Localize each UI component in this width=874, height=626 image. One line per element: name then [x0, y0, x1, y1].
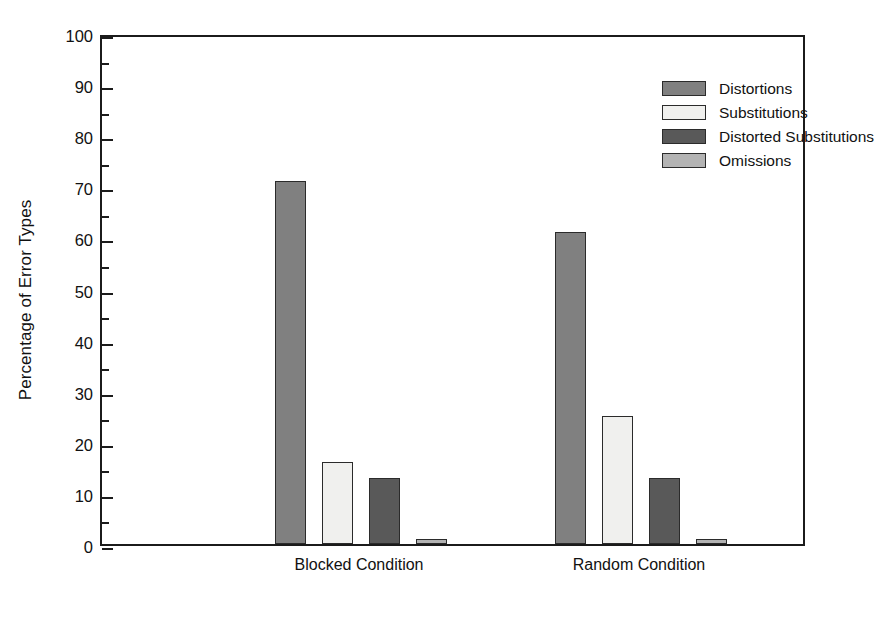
bar [555, 232, 586, 544]
y-tick-mark [102, 63, 109, 65]
bar [602, 416, 633, 544]
y-tick-mark [102, 446, 113, 448]
y-tick-label: 10 [75, 486, 93, 506]
x-axis-group-label: Random Condition [529, 556, 749, 574]
legend-swatch-icon [662, 129, 706, 144]
y-tick-mark [102, 114, 109, 116]
legend-swatch-icon [662, 153, 706, 168]
y-tick-mark [102, 395, 113, 397]
y-tick-mark [102, 344, 113, 346]
y-tick-mark [102, 522, 109, 524]
legend-item-label: Distortions [719, 80, 792, 97]
y-tick-label: 0 [84, 537, 93, 557]
legend-item-label: Distorted Substitutions [719, 128, 874, 145]
legend-swatch-icon [662, 105, 706, 120]
y-tick-label: 100 [65, 26, 93, 46]
bar [369, 478, 400, 544]
y-tick-mark [102, 216, 109, 218]
chart-legend: DistortionsSubstitutionsDistorted Substi… [662, 79, 874, 170]
bar [416, 539, 447, 544]
y-axis-title: Percentage of Error Types [16, 140, 36, 460]
y-tick-mark [102, 318, 109, 320]
y-tick-label: 80 [75, 128, 93, 148]
y-tick-label: 20 [75, 435, 93, 455]
y-tick-mark [102, 139, 113, 141]
y-tick-mark [102, 190, 113, 192]
bar [649, 478, 680, 544]
bar [275, 181, 306, 544]
y-tick-mark [102, 497, 113, 499]
y-tick-mark [102, 267, 109, 269]
y-tick-label: 90 [75, 77, 93, 97]
bar [696, 539, 727, 544]
y-tick-label: 30 [75, 384, 93, 404]
y-tick-label: 50 [75, 282, 93, 302]
bar [322, 462, 353, 544]
legend-item: Substitutions [662, 103, 874, 122]
y-tick-mark [102, 293, 113, 295]
y-tick-mark [102, 420, 109, 422]
y-tick-mark [102, 88, 113, 90]
y-tick-mark [102, 165, 109, 167]
legend-item: Distorted Substitutions [662, 127, 874, 146]
plot-area: 0102030405060708090100 DistortionsSubsti… [100, 35, 805, 546]
y-tick-mark [102, 369, 109, 371]
legend-item-label: Omissions [719, 152, 791, 169]
y-tick-label: 60 [75, 230, 93, 250]
y-tick-mark [102, 548, 113, 550]
y-tick-mark [102, 471, 109, 473]
y-tick-label: 70 [75, 179, 93, 199]
legend-swatch-icon [662, 81, 706, 96]
y-tick-mark [102, 241, 113, 243]
legend-item-label: Substitutions [719, 104, 808, 121]
x-axis-group-label: Blocked Condition [249, 556, 469, 574]
y-tick-label: 40 [75, 333, 93, 353]
y-tick-mark [102, 37, 113, 39]
legend-item: Distortions [662, 79, 874, 98]
legend-item: Omissions [662, 151, 874, 170]
